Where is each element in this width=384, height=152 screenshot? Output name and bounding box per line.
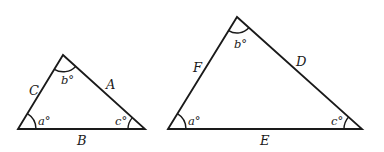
triangles-diagram: C A B a° b° c° F D E a° b° c° [0,0,384,152]
large-angle-b-label: b° [234,37,247,51]
large-angle-c-arc [344,117,349,129]
small-angle-b-arc [54,66,75,71]
side-label-B: B [76,133,87,148]
side-label-D: D [295,54,307,69]
small-angle-a-label: a° [38,114,51,128]
large-angle-b-arc [229,28,249,33]
side-label-E: E [259,133,270,148]
small-angle-b-label: b° [61,73,74,87]
small-triangle: C A B a° b° c° [18,55,145,148]
small-angle-c-label: c° [115,114,127,128]
large-triangle: F D E a° b° c° [168,17,362,148]
small-angle-c-arc [128,118,132,129]
large-angle-c-label: c° [331,114,343,128]
large-angle-a-label: a° [188,114,201,128]
side-label-A: A [105,77,115,92]
small-angle-a-arc [27,114,36,129]
large-angle-a-arc [177,114,186,129]
side-label-F: F [192,60,203,75]
side-label-C: C [29,83,39,98]
